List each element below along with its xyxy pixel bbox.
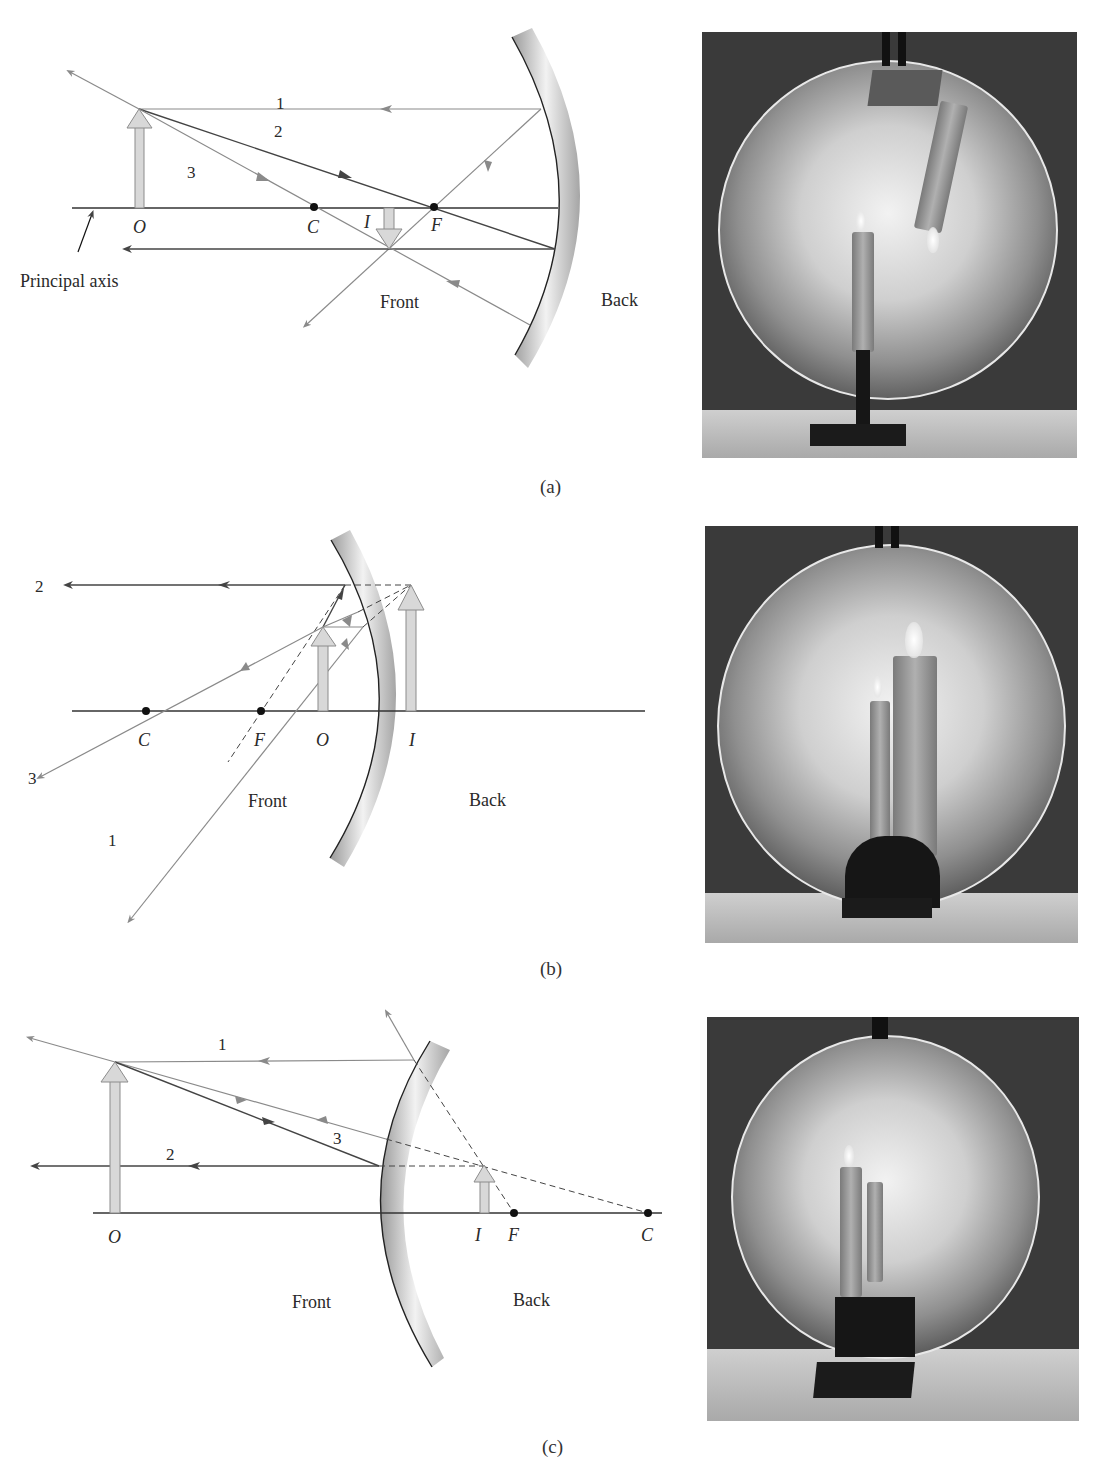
front-label-a: Front xyxy=(380,292,419,312)
center-point-c xyxy=(644,1209,652,1217)
caption-a: (a) xyxy=(540,476,561,498)
object-arrow-a xyxy=(127,109,152,208)
ray-label-3-a: 3 xyxy=(187,163,196,182)
panel-a-diagram: 1 2 3 O C I F Front Back Principal axis xyxy=(20,28,638,368)
ray-label-1-a: 1 xyxy=(276,94,285,113)
ray-label-2-c: 2 xyxy=(166,1145,175,1164)
center-label-a: C xyxy=(307,217,320,237)
back-label-b: Back xyxy=(469,790,506,810)
image-arrow-c xyxy=(474,1165,495,1213)
ray-label-1-c: 1 xyxy=(218,1035,227,1054)
object-label-c: O xyxy=(108,1227,121,1247)
photo-convex-reduced xyxy=(707,1017,1079,1421)
photo-concave-enlarged xyxy=(705,526,1078,943)
concave-mirror-a xyxy=(512,28,580,368)
concave-mirror-b xyxy=(330,530,396,867)
image-arrow-a xyxy=(376,208,402,249)
caption-c: (c) xyxy=(542,1436,563,1458)
center-label-c: C xyxy=(641,1225,654,1245)
front-label-c: Front xyxy=(292,1292,331,1312)
center-point-b xyxy=(142,707,150,715)
object-arrow-b xyxy=(311,627,336,711)
front-label-b: Front xyxy=(248,791,287,811)
ray-label-2-a: 2 xyxy=(274,122,283,141)
ray-label-2-b: 2 xyxy=(35,577,44,596)
image-arrow-b xyxy=(398,585,424,711)
ray-label-3-b: 3 xyxy=(28,769,37,788)
convex-mirror-c xyxy=(380,1041,450,1367)
focus-label-c: F xyxy=(507,1225,520,1245)
back-label-c: Back xyxy=(513,1290,550,1310)
image-label-c: I xyxy=(474,1225,482,1245)
focus-label-a: F xyxy=(430,215,443,235)
panel-b-diagram: 2 3 1 C F O I Front Back xyxy=(28,530,645,920)
focal-point-a xyxy=(430,203,438,211)
image-label-a: I xyxy=(363,212,371,232)
principal-axis-label: Principal axis xyxy=(20,271,118,291)
object-label-b: O xyxy=(316,730,329,750)
back-label-a: Back xyxy=(601,290,638,310)
object-label-a: O xyxy=(133,217,146,237)
image-label-b: I xyxy=(408,730,416,750)
caption-b: (b) xyxy=(540,958,562,980)
focal-point-b xyxy=(257,707,265,715)
focus-label-b: F xyxy=(253,730,266,750)
object-arrow-c xyxy=(101,1062,128,1213)
photo-concave-inverted xyxy=(702,32,1077,458)
ray-label-1-b: 1 xyxy=(108,831,117,850)
ray-label-3-c: 3 xyxy=(333,1129,342,1148)
center-point-a xyxy=(310,203,318,211)
panel-c-diagram: 1 3 2 O I F C Front Back xyxy=(30,1013,662,1367)
focal-point-c xyxy=(510,1209,518,1217)
center-label-b: C xyxy=(138,730,151,750)
